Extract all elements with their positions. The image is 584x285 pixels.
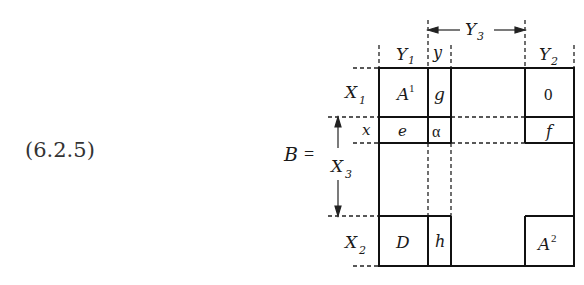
block-h: h [435,232,445,251]
svg-text:A: A [395,84,409,104]
block-a1: A 1 [395,82,415,104]
svg-text:2: 2 [550,55,558,68]
block-d: D [395,232,410,252]
column-label-y-small: y [432,43,443,62]
block-f: f [545,122,555,141]
svg-text:3: 3 [477,30,484,43]
svg-text:X: X [329,156,344,176]
svg-text:2: 2 [551,232,557,244]
svg-text:A: A [536,234,550,254]
row-label-x3: X 3 [329,156,352,181]
svg-text:3: 3 [345,168,352,181]
matrix-name: B [283,143,298,165]
row-guides [328,68,525,266]
svg-text:X: X [343,232,358,252]
equation-number: (6.2.5) [25,138,95,162]
block-g: g [434,84,445,104]
svg-text:1: 1 [409,82,415,94]
svg-text:1: 1 [359,94,366,107]
equals-sign: = [304,144,314,164]
svg-text:2: 2 [358,244,366,257]
block-zero: 0 [544,85,553,104]
row-label-x-small: x [362,121,371,139]
svg-text:X: X [343,82,358,102]
column-label-y2: Y 2 [539,44,558,68]
row-label-x2: X 2 [343,232,366,257]
block-alpha: α [432,123,441,140]
block-matrix-diagram: (6.2.5) B = [0,0,584,285]
column-label-y3: Y 3 [465,19,484,43]
block-a2: A 2 [536,232,557,254]
column-label-y1: Y 1 [396,44,415,67]
block-e: e [398,122,407,140]
svg-text:1: 1 [408,54,415,67]
row-label-x1: X 1 [343,82,366,107]
